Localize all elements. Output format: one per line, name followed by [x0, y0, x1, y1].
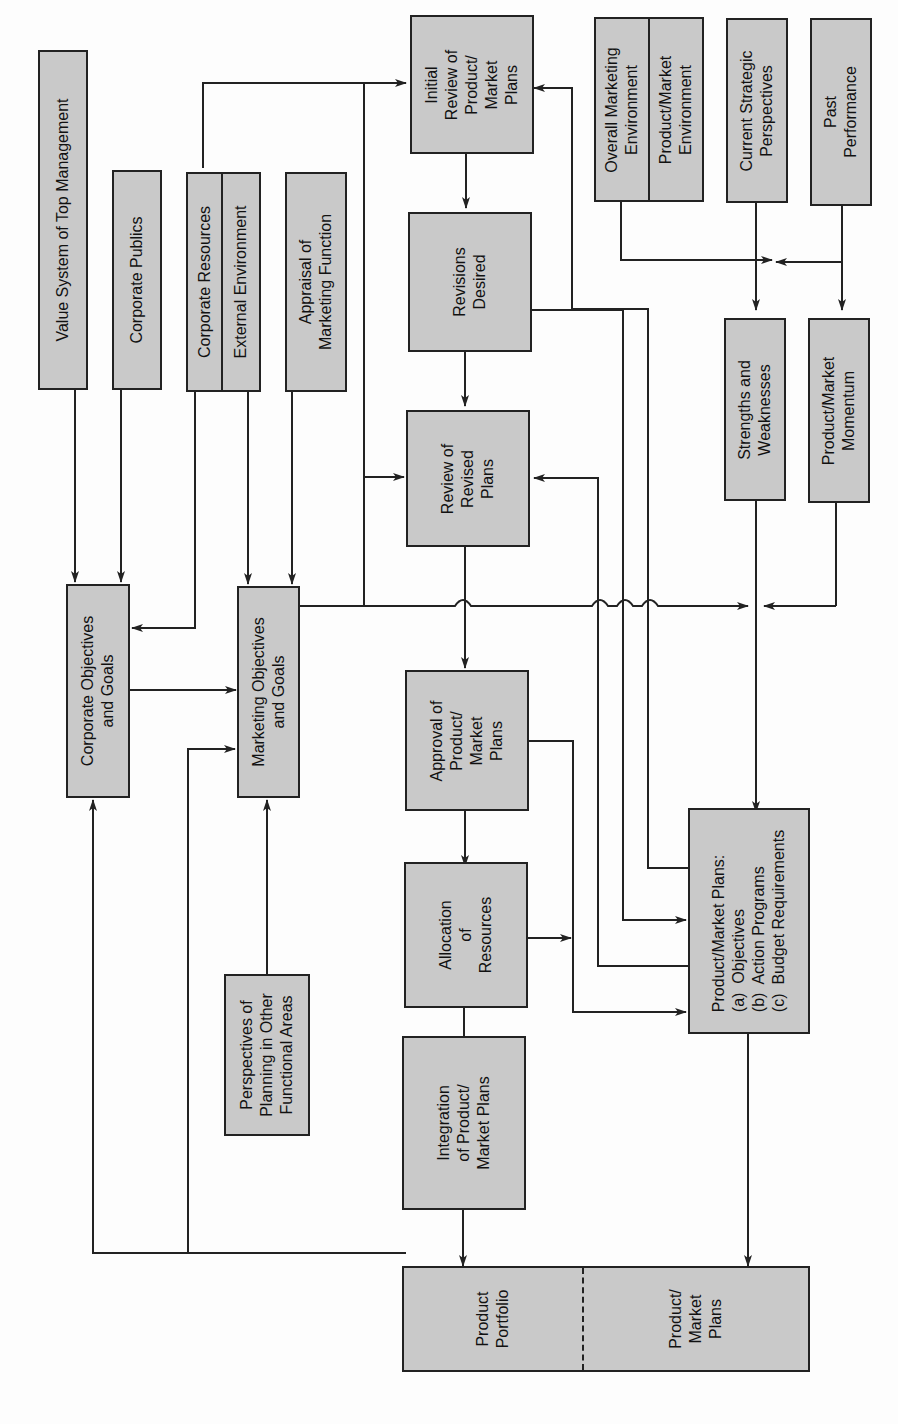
box-integration: Integration of Product/ Market Plans: [402, 1036, 526, 1210]
box-product-market-momentum: Product/Market Momentum: [808, 318, 870, 503]
box-value-system: Value System of Top Management: [38, 50, 88, 390]
box-current-strategic: Current Strategic Perspectives: [726, 18, 788, 203]
label: Corporate Objectives and Goals: [78, 616, 118, 766]
box-product-portfolio: Product Portfolio Product/ Market Plans: [402, 1266, 810, 1372]
box-initial-review: Initial Review of Product/ Market Plans: [410, 15, 534, 154]
label: Review of Revised Plans: [438, 443, 498, 513]
label: Value System of Top Management: [53, 98, 73, 341]
label: External Environment: [231, 206, 251, 359]
box-review-revised: Review of Revised Plans: [406, 410, 530, 547]
box-strengths-weaknesses: Strengths and Weaknesses: [724, 318, 786, 501]
box-product-market-env: Product/Market Environment: [648, 17, 704, 202]
label: Product/Market Plans: (a) Objectives (b)…: [709, 830, 789, 1012]
box-approval: Approval of Product/ Market Plans: [405, 670, 529, 811]
box-appraisal-marketing: Appraisal of Marketing Function: [285, 172, 347, 392]
label: Approval of Product/ Market Plans: [427, 700, 507, 781]
label: Product/Market Environment: [656, 55, 696, 163]
box-marketing-objectives: Marketing Objectives and Goals: [237, 586, 300, 798]
label: Perspectives of Planning in Other Functi…: [237, 993, 297, 1117]
label: Allocation of Resources: [436, 897, 496, 973]
box-allocation: Allocation of Resources: [404, 862, 528, 1008]
label: Corporate Resources: [195, 206, 215, 358]
label: Revisions Desired: [450, 247, 490, 316]
label: Product/ Market Plans: [666, 1289, 726, 1349]
box-corporate-resources: Corporate Resources: [186, 172, 223, 392]
label: Overall Marketing Environment: [602, 47, 642, 172]
label: Marketing Objectives and Goals: [249, 617, 289, 766]
label: Corporate Publics: [127, 216, 147, 343]
label: Initial Review of Product/ Market Plans: [422, 49, 522, 119]
portfolio-plans-section: Product/ Market Plans: [584, 1268, 808, 1370]
box-past-performance: Past Performance: [810, 18, 872, 206]
box-overall-marketing-env: Overall Marketing Environment: [594, 17, 650, 202]
box-corporate-objectives: Corporate Objectives and Goals: [66, 584, 130, 798]
label: Product Portfolio: [473, 1290, 513, 1349]
box-revisions-desired: Revisions Desired: [408, 212, 532, 352]
portfolio-section: Product Portfolio: [404, 1268, 582, 1370]
label: Integration of Product/ Market Plans: [434, 1076, 494, 1169]
label: Strengths and Weaknesses: [735, 360, 775, 460]
box-external-environment: External Environment: [221, 172, 261, 392]
label: Past Performance: [821, 66, 861, 158]
box-corporate-publics: Corporate Publics: [112, 170, 162, 390]
box-product-market-plans: Product/Market Plans: (a) Objectives (b)…: [688, 808, 810, 1034]
box-perspectives-other: Perspectives of Planning in Other Functi…: [224, 974, 310, 1136]
label: Product/Market Momentum: [819, 356, 859, 464]
label: Current Strategic Perspectives: [737, 50, 777, 171]
label: Appraisal of Marketing Function: [296, 214, 336, 350]
